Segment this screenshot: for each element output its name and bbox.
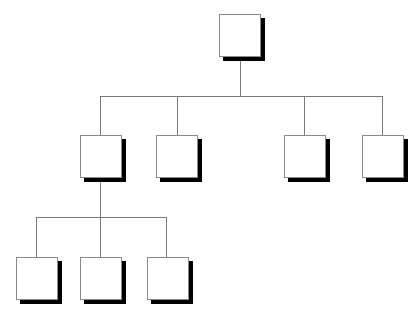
node-level2-1[interactable] — [16, 257, 58, 300]
connector-to-l2-1 — [36, 217, 37, 257]
connector-to-l2-3 — [166, 217, 167, 257]
node-root[interactable] — [219, 14, 261, 57]
node-level2-2[interactable] — [80, 257, 122, 300]
connector-to-l1-3 — [304, 96, 305, 135]
connector-to-l1-4 — [382, 96, 383, 135]
node-level1-3[interactable] — [284, 135, 326, 178]
node-level1-1[interactable] — [80, 135, 122, 178]
connector-root-down — [240, 57, 241, 96]
connector-level1-bus — [100, 96, 383, 97]
connector-to-l2-2 — [100, 217, 101, 257]
connector-to-l1-2 — [177, 96, 178, 135]
node-level1-2[interactable] — [156, 135, 198, 178]
node-level2-3[interactable] — [147, 257, 189, 300]
connector-l1-1-down — [100, 178, 101, 217]
connector-level2-bus — [36, 217, 167, 218]
connector-to-l1-1 — [100, 96, 101, 135]
node-level1-4[interactable] — [362, 135, 404, 178]
